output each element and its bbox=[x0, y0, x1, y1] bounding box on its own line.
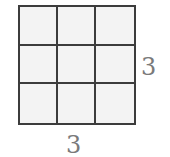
grid-cell-r2-c1 bbox=[20, 46, 58, 85]
grid-cell-r3-c1 bbox=[20, 84, 58, 123]
height-label: 3 bbox=[141, 55, 156, 79]
grid-cell-r2-c2 bbox=[58, 46, 96, 85]
grid-cell-r1-c2 bbox=[58, 7, 96, 46]
width-label: 3 bbox=[66, 133, 81, 157]
grid-cell-r2-c3 bbox=[96, 46, 134, 85]
square-grid-3x3 bbox=[18, 5, 136, 125]
grid-cell-r1-c3 bbox=[96, 7, 134, 46]
grid-cell-r1-c1 bbox=[20, 7, 58, 46]
grid-cell-r3-c2 bbox=[58, 84, 96, 123]
grid-cell-r3-c3 bbox=[96, 84, 134, 123]
